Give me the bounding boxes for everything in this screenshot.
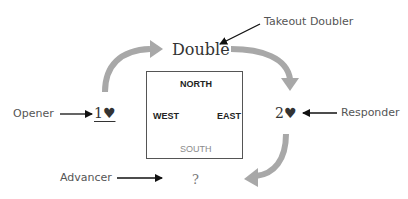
opening-bid-1-heart: 1♥ xyxy=(94,106,115,120)
advancer-label: Advancer xyxy=(60,172,112,183)
south-seat-label: SOUTH xyxy=(180,145,212,154)
double-bid: Double xyxy=(172,42,230,58)
east-seat-label: EAST xyxy=(217,112,241,121)
advance-bid-unknown: ? xyxy=(192,173,199,186)
bidding-sequence-diagram: Takeout Doubler Opener Responder Advance… xyxy=(0,0,408,199)
flow-arrow-responder-to-advancer xyxy=(244,134,286,187)
takeout-doubler-label: Takeout Doubler xyxy=(264,16,353,27)
north-seat-label: NORTH xyxy=(180,80,212,89)
responder-label: Responder xyxy=(341,107,400,118)
response-bid-2-heart: 2♥ xyxy=(275,106,296,120)
opener-label: Opener xyxy=(13,108,54,119)
west-seat-label: WEST xyxy=(153,112,179,121)
